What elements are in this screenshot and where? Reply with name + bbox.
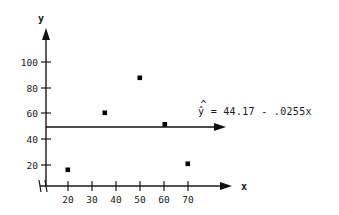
x-axis-label: x <box>241 181 247 192</box>
y-tick-label-20: 20 <box>27 160 39 171</box>
x-tick-label-70: 70 <box>182 194 194 205</box>
x-tick-label-60: 60 <box>158 194 170 205</box>
y-tick-label-40: 40 <box>27 134 39 145</box>
x-tick-label-40: 40 <box>110 194 122 205</box>
scatter-plot-figure: 100 80 60 40 20 y 20 3 <box>0 0 339 215</box>
data-point <box>103 111 108 116</box>
y-tick-label-60: 60 <box>27 108 39 119</box>
y-axis-label: y <box>38 13 44 24</box>
data-point <box>163 122 168 127</box>
data-point <box>138 76 143 81</box>
x-tick-label-50: 50 <box>134 194 146 205</box>
y-tick-label-100: 100 <box>21 57 38 68</box>
regression-equation-text: ŷ = 44.17 - .0255x <box>198 106 312 117</box>
x-tick-label-30: 30 <box>86 194 98 205</box>
data-point <box>186 162 191 167</box>
x-tick-label-20: 20 <box>62 194 74 205</box>
data-point <box>66 168 71 173</box>
y-tick-label-80: 80 <box>27 83 39 94</box>
regression-scatter-chart: 100 80 60 40 20 y 20 3 <box>0 0 339 215</box>
